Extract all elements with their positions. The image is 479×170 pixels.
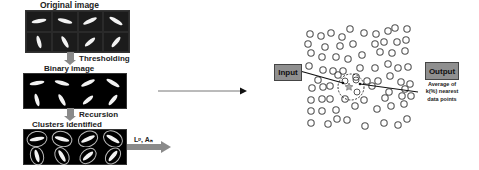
data-point [404,26,410,32]
data-point [315,77,321,83]
data-point [320,67,326,73]
output-note-line: data points [422,96,462,103]
data-point [385,28,391,34]
data-point [337,43,343,49]
data-point [385,61,391,67]
data-point [350,41,356,47]
data-point [388,103,394,109]
data-point [407,81,413,87]
output-box: Output [425,62,459,80]
data-point [309,85,315,91]
data-point [344,117,350,123]
knn-scatter [0,0,479,170]
data-point [305,41,311,47]
output-note-line: k(%) nearest [422,88,462,95]
data-point [334,116,340,122]
data-point [319,108,325,114]
data-point [322,44,328,50]
connector-line [360,84,418,92]
output-note-line: Average of [422,81,462,88]
input-box: Input [274,64,302,81]
data-point [359,52,365,58]
data-point [333,54,339,60]
data-point [382,95,388,101]
data-point [345,56,351,62]
data-point [357,65,363,71]
data-point [306,63,312,69]
data-point [402,86,408,92]
data-point [372,65,378,71]
data-point [335,72,341,78]
data-point [395,65,401,71]
data-point [361,97,367,103]
data-point [394,39,400,45]
data-point [361,30,367,36]
data-point [307,31,313,37]
data-point [373,31,379,37]
data-point [402,48,408,54]
data-point [333,107,339,113]
data-point [395,122,401,128]
data-point [308,120,314,126]
data-point [308,108,314,114]
data-point [327,96,333,102]
line-end-dot [359,83,362,86]
data-point [318,33,324,39]
data-point [403,37,409,43]
data-point [320,84,326,90]
data-point [308,97,314,103]
data-point [339,34,345,40]
data-point [374,106,380,112]
line-end-dot [342,82,345,85]
data-point [386,89,392,95]
data-point [327,83,333,89]
data-point [405,64,411,70]
data-point [364,78,370,84]
data-point [319,96,325,102]
data-point [401,101,407,107]
data-point [377,49,383,55]
data-point [319,54,325,60]
data-point [347,26,353,32]
data-point [398,79,404,85]
neighbor-point [354,89,360,95]
data-point [404,116,410,122]
data-point [381,120,387,126]
data-point [389,50,395,56]
data-point [399,93,405,99]
data-point [372,41,378,47]
data-point [352,103,358,109]
data-point [381,39,387,45]
data-point [387,73,393,79]
data-point [375,78,381,84]
data-point [392,25,398,31]
data-point [328,30,334,36]
data-point [308,50,314,56]
output-note: Average of k(%) nearest data points [422,81,462,103]
data-point [362,123,368,129]
data-point [408,93,414,99]
data-point [325,121,331,127]
